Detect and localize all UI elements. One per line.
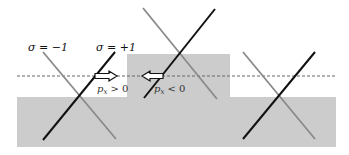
sigma-plus-label: σ = +1 (96, 41, 136, 54)
px-positive-label: px > 0 (97, 83, 128, 96)
sigma-minus-label: σ = −1 (28, 41, 68, 54)
band-diagram: σ = −1 σ = +1 px > 0 px < 0 (0, 0, 349, 155)
region-profile (17, 54, 336, 147)
